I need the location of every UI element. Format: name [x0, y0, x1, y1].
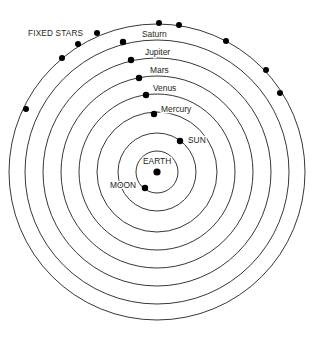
sun-dot — [177, 138, 183, 144]
orbit-label-group: SaturnJupiterMarsVenusMercury — [142, 29, 192, 114]
earth-label: EARTH — [143, 156, 171, 166]
fixed-star-dot — [59, 55, 65, 61]
fixed-star-dot — [176, 22, 182, 28]
venus-label: Venus — [153, 83, 176, 93]
fixed-stars-label: FIXED STARS — [28, 29, 84, 38]
saturn-dot — [120, 39, 126, 45]
fixed-star-dot — [277, 90, 283, 96]
sun-label: SUN — [188, 135, 206, 145]
moon-dot — [142, 185, 148, 191]
mars-label: Mars — [150, 65, 169, 75]
fixed-star-dot — [156, 20, 162, 26]
jupiter-dot — [128, 57, 134, 63]
venus-dot — [143, 92, 149, 98]
fixed-star-dot — [263, 67, 269, 73]
celestial-body-dot-group — [120, 39, 183, 191]
geocentric-diagram: SaturnJupiterMarsVenusMercury FIXED STAR… — [0, 0, 312, 338]
saturn-label: Saturn — [142, 29, 167, 39]
fixed-star-dot — [94, 30, 100, 36]
fixed-star-dot — [223, 38, 229, 44]
fixed-star-dot — [75, 41, 81, 47]
mars-dot — [136, 75, 142, 81]
fixed-star-dot — [23, 106, 29, 112]
cosmos-svg: SaturnJupiterMarsVenusMercury FIXED STAR… — [0, 0, 312, 338]
jupiter-label: Jupiter — [145, 47, 170, 57]
mercury-dot — [151, 111, 157, 117]
mercury-label: Mercury — [161, 104, 192, 114]
moon-label: MOON — [110, 180, 136, 190]
earth-dot — [153, 168, 160, 175]
